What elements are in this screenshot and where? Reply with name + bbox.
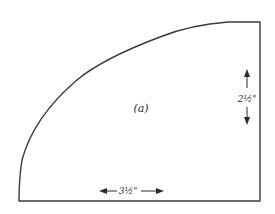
vertical-dimension-label: 2½" xyxy=(237,94,257,104)
horizontal-dimension: 3½" xyxy=(103,186,160,196)
pattern-diagram: (a) 2½" 3½" xyxy=(0,0,275,214)
figure-label: (a) xyxy=(133,102,148,115)
horizontal-dimension-label: 3½" xyxy=(119,186,138,196)
vertical-dimension: 2½" xyxy=(237,73,257,121)
